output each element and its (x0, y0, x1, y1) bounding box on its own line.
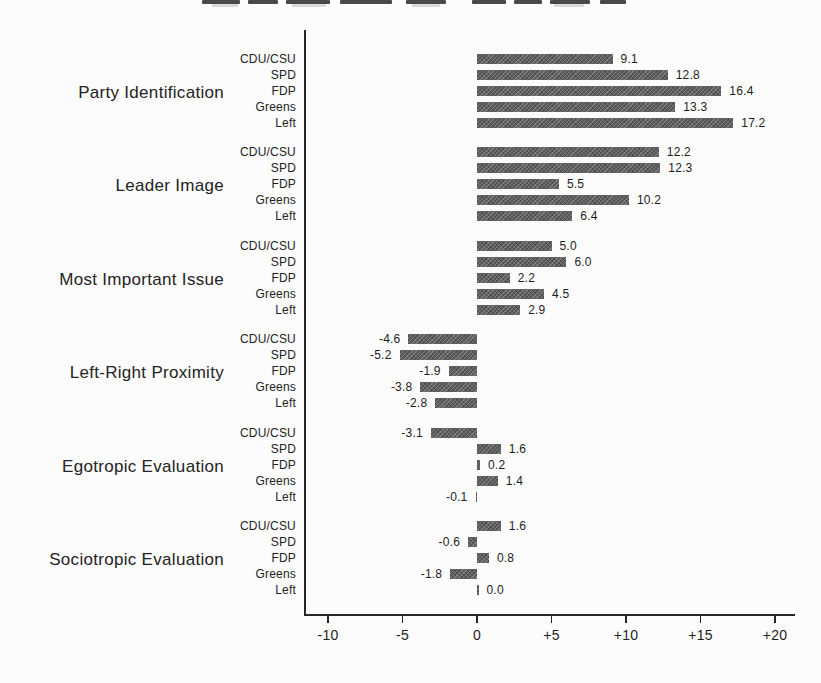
value-label: 6.0 (574, 255, 591, 269)
category-label: FDP (230, 551, 296, 565)
category-label: FDP (230, 84, 296, 98)
category-label: Greens (230, 474, 296, 488)
category-label: Greens (230, 567, 296, 581)
value-label: -0.1 (408, 490, 468, 504)
value-label: -3.1 (363, 426, 423, 440)
bar (477, 476, 498, 486)
bar (477, 147, 659, 157)
x-axis-tick (402, 616, 404, 623)
bar-chart: -10-50+5+10+15+20Party IdentificationCDU… (0, 0, 821, 683)
bar (450, 569, 477, 579)
group-label: Sociotropic Evaluation (0, 550, 224, 570)
category-label: CDU/CSU (230, 426, 296, 440)
bar (477, 273, 510, 283)
x-axis-tick (774, 616, 776, 623)
category-label: Left (230, 116, 296, 130)
category-label: CDU/CSU (230, 332, 296, 346)
category-label: CDU/CSU (230, 239, 296, 253)
value-label: 4.5 (552, 287, 569, 301)
value-label: 9.1 (621, 52, 638, 66)
bar (477, 289, 544, 299)
x-axis-tick-label: 0 (452, 627, 502, 643)
value-label: 16.4 (729, 84, 753, 98)
value-label: 10.2 (637, 193, 661, 207)
category-label: Greens (230, 287, 296, 301)
bar (477, 257, 566, 267)
x-axis-tick-label: +10 (601, 627, 651, 643)
figure: -10-50+5+10+15+20Party IdentificationCDU… (0, 0, 821, 683)
bar (476, 492, 478, 502)
category-label: FDP (230, 271, 296, 285)
bar (477, 305, 520, 315)
value-label: -1.9 (381, 364, 441, 378)
x-axis-tick (551, 616, 553, 623)
value-label: 12.8 (676, 68, 700, 82)
category-label: SPD (230, 348, 296, 362)
category-label: CDU/CSU (230, 145, 296, 159)
x-axis-tick (327, 616, 329, 623)
bar (477, 102, 675, 112)
value-label: 6.4 (580, 209, 597, 223)
value-label: 1.6 (509, 442, 526, 456)
x-axis-line (304, 614, 795, 616)
value-label: -2.8 (367, 396, 427, 410)
x-axis-tick (625, 616, 627, 623)
bar (477, 54, 613, 64)
bar (477, 553, 489, 563)
bar (477, 521, 501, 531)
bar (420, 382, 477, 392)
category-label: Left (230, 583, 296, 597)
category-label: FDP (230, 458, 296, 472)
group-label: Most Important Issue (0, 270, 224, 290)
x-axis-tick (700, 616, 702, 623)
x-axis-tick (476, 616, 478, 623)
value-label: -3.8 (352, 380, 412, 394)
category-label: SPD (230, 535, 296, 549)
category-label: Greens (230, 193, 296, 207)
bar (477, 460, 480, 470)
bar (400, 350, 477, 360)
bar (435, 398, 477, 408)
bar (477, 163, 660, 173)
x-axis-tick-label: +15 (676, 627, 726, 643)
x-axis-tick-label: -5 (378, 627, 428, 643)
group-label: Egotropic Evaluation (0, 457, 224, 477)
category-label: Left (230, 396, 296, 410)
bar (408, 334, 477, 344)
category-label: SPD (230, 68, 296, 82)
value-label: 5.0 (560, 239, 577, 253)
x-axis-tick-label: -10 (303, 627, 353, 643)
x-axis-tick-label: +5 (527, 627, 577, 643)
bar (477, 179, 559, 189)
bar (477, 70, 668, 80)
bar (449, 366, 477, 376)
bar (431, 428, 477, 438)
x-axis-tick-label: +20 (750, 627, 800, 643)
value-label: -0.6 (400, 535, 460, 549)
value-label: 1.4 (506, 474, 523, 488)
bar (468, 537, 477, 547)
bar (477, 118, 733, 128)
value-label: -1.8 (382, 567, 442, 581)
value-label: 12.3 (668, 161, 692, 175)
value-label: -5.2 (332, 348, 392, 362)
value-label: 0.2 (488, 458, 505, 472)
category-label: CDU/CSU (230, 52, 296, 66)
value-label: 1.6 (509, 519, 526, 533)
value-label: 12.2 (667, 145, 691, 159)
category-label: SPD (230, 442, 296, 456)
value-label: 0.8 (497, 551, 514, 565)
category-label: Left (230, 490, 296, 504)
category-label: CDU/CSU (230, 519, 296, 533)
group-label: Party Identification (0, 83, 224, 103)
bar (477, 444, 501, 454)
bar (477, 195, 629, 205)
category-label: Left (230, 303, 296, 317)
group-label: Left-Right Proximity (0, 363, 224, 383)
value-label: 5.5 (567, 177, 584, 191)
category-label: FDP (230, 364, 296, 378)
category-label: SPD (230, 161, 296, 175)
category-label: Greens (230, 100, 296, 114)
value-label: -4.6 (340, 332, 400, 346)
bar (477, 86, 721, 96)
